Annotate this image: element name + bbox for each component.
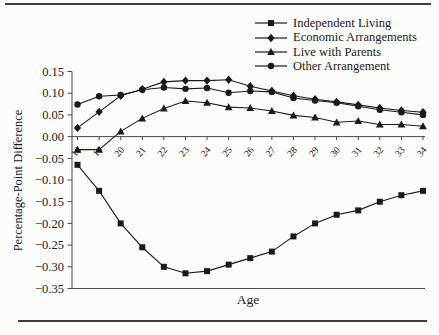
square-marker [75,162,81,168]
triangle-marker [138,114,146,121]
circle-marker [182,86,188,92]
square-marker [398,192,404,198]
square-marker [161,264,167,270]
x-tick-label: 20 [112,145,126,159]
x-tick-label: 30 [328,145,342,159]
y-axis: 0.150.100.050.00−0.05−0.10−0.15−0.20−0.2… [35,65,72,296]
circle-marker [225,90,231,96]
square-marker [269,249,275,255]
x-tick-label: 25 [220,145,234,159]
legend-item-independent-living: Independent Living [255,16,417,30]
x-tick-label: 33 [393,145,407,159]
x-tick-label: 27 [264,145,278,159]
x-tick-label: 32 [372,145,386,159]
y-tick-label: −0.25 [35,238,64,252]
x-tick-label: 34 [415,145,429,159]
legend-label: Economic Arrangements [293,31,417,44]
circle-marker [96,93,102,99]
y-tick-label: 0.15 [42,65,64,79]
legend-label: Independent Living [293,17,391,30]
y-tick-label: 0.05 [42,108,64,122]
x-axis: 1819202122232425262728293031323334 [69,137,428,289]
square-marker [377,199,383,205]
y-tick-label: −0.05 [35,152,64,166]
y-axis-title: Percentage-Point Difference [11,96,28,266]
x-tick-label: 21 [134,145,148,159]
diamond-marker [117,92,124,100]
square-marker [118,220,124,226]
y-tick-label: −0.10 [35,173,64,187]
y-tick-label: −0.35 [35,282,64,296]
series-live-with-parents [74,97,427,153]
square-marker [334,212,340,218]
bottom-border-rule [18,320,427,322]
x-tick-label: 29 [307,145,321,159]
legend-label: Other Arrangement [293,60,390,73]
x-tick-label: 31 [350,145,364,159]
y-tick-label: 0.10 [42,86,64,100]
square-marker [204,268,210,274]
legend-label: Live with Parents [293,46,381,59]
diamond-marker [333,98,340,106]
x-tick-label: 23 [177,145,191,159]
legend-item-economic-arrangements: Economic Arrangements [255,30,417,44]
square-marker [290,233,296,239]
circle-marker [74,101,80,107]
chart-legend: Independent LivingEconomic ArrangementsL… [255,16,417,74]
figure-page: 0.150.100.050.00−0.05−0.10−0.15−0.20−0.2… [0,0,439,335]
square-marker [247,255,253,261]
y-tick-label: −0.30 [35,260,64,274]
diamond-marker [268,87,275,95]
series-independent-living [75,162,427,277]
circle-marker [204,85,210,91]
triangle-marker [354,117,362,124]
square-marker [355,207,361,213]
diamond-marker [182,76,189,84]
diamond-marker [95,108,102,116]
diamond-marker [139,85,146,93]
square-marker [312,220,318,226]
diamond-marker [74,124,81,132]
diamond-marker [267,33,274,41]
x-tick-label: 26 [242,145,256,159]
circle-marker [268,63,274,69]
y-tick-label: −0.20 [35,217,64,231]
diamond-marker [160,78,167,86]
legend-item-other-arrangement: Other Arrangement [255,59,417,73]
square-marker [96,188,102,194]
legend-triangle-swatch [255,46,287,58]
y-tick-label: −0.15 [35,195,64,209]
diamond-marker [225,76,232,84]
x-tick-label: 24 [199,145,213,159]
square-marker [420,188,426,194]
square-marker [139,244,145,250]
square-marker [182,270,188,276]
legend-diamond-swatch [255,32,287,44]
y-tick-label: 0.00 [42,130,64,144]
triangle-marker [117,127,125,134]
legend-circle-swatch [255,60,287,72]
diamond-marker [203,76,210,84]
square-marker [226,262,232,268]
x-tick-label: 22 [156,145,170,159]
square-marker [268,20,274,26]
legend-item-live-with-parents: Live with Parents [255,45,417,59]
legend-square-swatch [255,17,287,29]
x-axis-title: Age [198,292,298,308]
triangle-marker [182,97,190,104]
x-tick-label: 28 [285,145,299,159]
